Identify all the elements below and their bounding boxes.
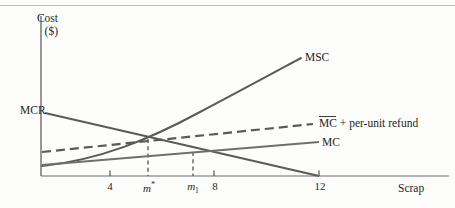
y-axis-unit-text: ($) (14, 25, 58, 38)
y-axis-title: Cost ($) (14, 12, 58, 38)
series-label-mc-bar-text: MC (319, 117, 337, 129)
chart-plot-area (0, 0, 455, 208)
x-tick-label-12: 12 (315, 180, 326, 192)
x-tick-label-8: 8 (212, 180, 218, 192)
x-tick-label-m-one: m1 (187, 180, 199, 195)
figure-container: Cost ($) Scrap MCR MSC MC MC + per-unit … (0, 0, 455, 208)
series-label-mc: MC (322, 136, 340, 149)
x-axis-title: Scrap (398, 182, 424, 195)
x-tick-label-4: 4 (107, 180, 113, 192)
series-label-mc-plus-refund: MC + per-unit refund (319, 117, 418, 130)
x-tick-label-m-one-sub: 1 (195, 186, 199, 195)
curve-mc-plus-refund (42, 124, 313, 152)
series-label-refund-suffix-text: + per-unit refund (337, 117, 418, 129)
series-label-mcr: MCR (20, 104, 46, 117)
curve-mc (42, 142, 319, 165)
series-label-msc: MSC (305, 51, 329, 64)
curve-msc (42, 58, 301, 166)
x-tick-label-m-star-base: m (143, 182, 151, 194)
x-tick-label-m-star: m* (143, 180, 155, 194)
y-axis-title-text: Cost (37, 12, 58, 24)
x-tick-label-m-star-sup: * (151, 180, 155, 189)
x-tick-label-m-one-base: m (187, 180, 195, 192)
